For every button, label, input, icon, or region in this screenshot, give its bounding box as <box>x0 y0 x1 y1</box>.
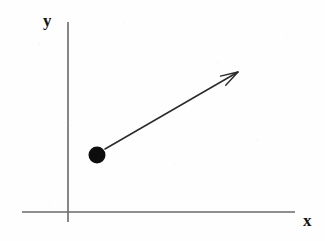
particle-dot <box>89 147 106 164</box>
vector-diagram-figure: y x <box>0 0 325 241</box>
vector-shaft-line <box>105 72 238 149</box>
plot-canvas <box>0 0 325 241</box>
x-axis-label: x <box>303 212 312 229</box>
vector-arrowhead <box>220 72 238 85</box>
y-axis-label: y <box>43 12 52 29</box>
